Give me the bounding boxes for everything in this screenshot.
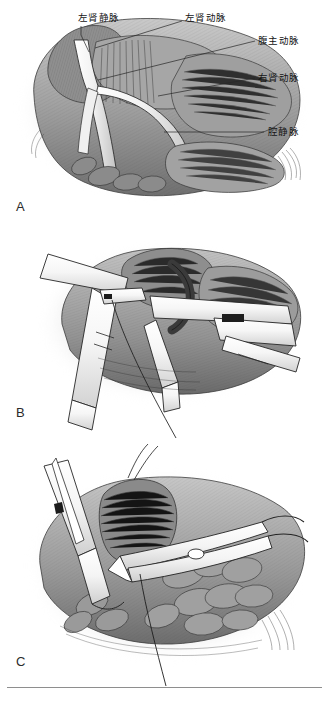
panel-c: C (0, 444, 329, 687)
label-vena-cava: 腔静脉 (268, 127, 299, 137)
panel-letter-b: B (16, 406, 25, 419)
panel-b: B (0, 232, 329, 444)
panel-a: 左肾静脉 左肾动脉 腹主动脉 右肾动脉 腔静脉 A (0, 0, 329, 232)
figure-page: 左肾静脉 左肾动脉 腹主动脉 右肾动脉 腔静脉 A (0, 0, 329, 702)
panel-c-illustration (0, 444, 329, 687)
label-abdominal-aorta: 腹主动脉 (258, 36, 300, 46)
panel-letter-a: A (16, 200, 25, 213)
label-left-renal-artery: 左肾动脉 (185, 13, 227, 23)
label-left-renal-vein: 左肾静脉 (78, 13, 120, 23)
label-right-renal-artery: 右肾动脉 (258, 73, 300, 83)
panel-letter-c: C (16, 655, 26, 668)
panel-b-illustration (0, 232, 329, 444)
footer-divider (7, 687, 322, 688)
